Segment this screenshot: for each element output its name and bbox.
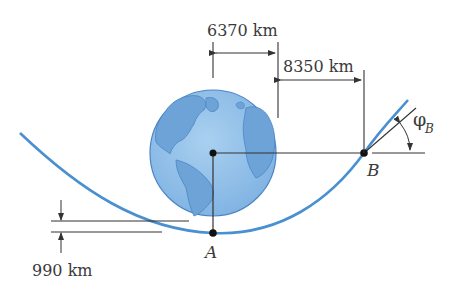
- angle-arc: [400, 123, 410, 150]
- tangent-line: [364, 108, 416, 153]
- diagram-canvas: 6370 km 8350 km 990 km A B φ B: [0, 0, 449, 297]
- b-offset-label: 8350 km: [283, 57, 354, 76]
- earth-center-dot: [210, 150, 217, 157]
- point-a-dot: [209, 229, 217, 237]
- altitude-label: 990 km: [32, 261, 93, 280]
- point-b-label: B: [366, 160, 380, 180]
- point-a-label: A: [203, 242, 217, 262]
- earth-radius-label: 6370 km: [207, 21, 278, 40]
- angle-subscript: B: [424, 122, 434, 136]
